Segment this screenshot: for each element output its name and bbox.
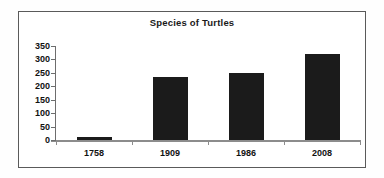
bar xyxy=(229,73,264,140)
bar xyxy=(153,77,188,140)
y-axis-tick-label: 150 xyxy=(35,95,50,104)
x-axis-tick-label: 1909 xyxy=(160,148,180,158)
x-axis-tick-mark xyxy=(208,141,209,145)
chart-frame: Species of Turtles 050100150200250300350… xyxy=(18,11,366,168)
y-axis-tick-mark xyxy=(51,73,56,74)
x-axis-tick-mark xyxy=(132,141,133,145)
plot-area: 050100150200250300350 1758190919862008 xyxy=(19,12,365,167)
y-axis-tick-mark xyxy=(51,46,56,47)
x-axis-tick-mark xyxy=(284,141,285,145)
y-axis-tick-label: 250 xyxy=(35,68,50,77)
chart-image: Species of Turtles 050100150200250300350… xyxy=(0,0,384,178)
y-axis-tick-mark xyxy=(51,113,56,114)
x-axis-line xyxy=(51,140,361,142)
bar xyxy=(305,54,340,140)
y-axis-tick-mark xyxy=(51,86,56,87)
y-axis-label-group: 050100150200250300350 xyxy=(19,42,53,138)
y-axis-tick-label: 200 xyxy=(35,82,50,91)
y-axis-tick-label: 50 xyxy=(40,122,50,131)
y-axis-tick-label: 0 xyxy=(45,136,50,145)
y-axis-tick-label: 100 xyxy=(35,109,50,118)
y-axis-tick-mark xyxy=(51,100,56,101)
y-axis-tick-mark xyxy=(51,127,56,128)
x-axis-tick-label: 1758 xyxy=(84,148,104,158)
y-axis-tick-label: 300 xyxy=(35,55,50,64)
bar xyxy=(77,137,112,140)
x-axis-tick-label: 2008 xyxy=(312,148,332,158)
y-axis-tick-label: 350 xyxy=(35,42,50,51)
x-axis-tick-mark xyxy=(56,141,57,145)
x-axis-tick-label: 1986 xyxy=(236,148,256,158)
y-axis-tick-mark xyxy=(51,59,56,60)
x-axis-tick-mark xyxy=(360,141,361,145)
